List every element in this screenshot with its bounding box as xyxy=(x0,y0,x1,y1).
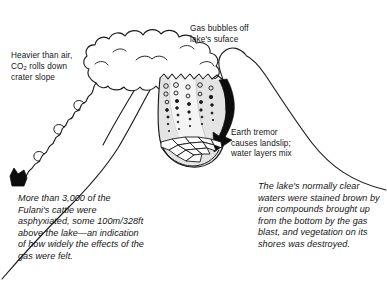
label-earth-tremor: Earth tremor causes landslip; water laye… xyxy=(231,128,341,160)
shore-vegetation xyxy=(10,168,27,186)
label-co2-line2-post: rolls down xyxy=(27,62,67,71)
co2-flow-edge xyxy=(24,83,96,178)
caption-cattle-asphyxiated: More than 3,000 of the Fulani's cattle w… xyxy=(18,193,144,263)
right-slope xyxy=(245,55,386,190)
label-co2-rolls-down: Heavier than air,CO2 rolls downcrater sl… xyxy=(11,51,131,84)
co2-flow-lobe-1 xyxy=(74,100,84,110)
label-co2-line3: crater slope xyxy=(11,73,55,82)
co2-flow-lobe-3 xyxy=(34,151,44,161)
crater-rim-right xyxy=(219,48,246,80)
co2-flow xyxy=(10,83,96,186)
label-co2-line2-pre: CO xyxy=(11,62,23,71)
label-co2-line1: Heavier than air, xyxy=(11,51,72,60)
label-gas-bubbles: Gas bubbles off lake's suface xyxy=(190,24,306,45)
diagram-page: Heavier than air,CO2 rolls downcrater sl… xyxy=(0,0,387,281)
caption-stained-waters: The lake's normally clear waters were st… xyxy=(258,181,386,251)
